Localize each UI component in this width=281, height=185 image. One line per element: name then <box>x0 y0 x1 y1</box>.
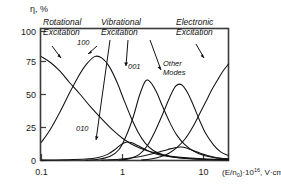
y-tick-label-0: 0 <box>31 156 36 166</box>
annotation-mode-100: 100 <box>77 38 90 47</box>
x-tick-label-0.1: 0.1 <box>35 167 48 177</box>
annotation-rotational-excitation: Rotational Excitation <box>43 17 82 37</box>
annotation-other-modes-line2: Modes <box>163 68 186 77</box>
x-tick-label-10: 10 <box>198 167 208 177</box>
x-axis-label: (E/n0)·1016, V·cm2 <box>222 167 281 179</box>
svg-text:(E/n0)·1016, V·cm2: (E/n0)·1016, V·cm2 <box>222 167 281 179</box>
x-label-mid: )·10 <box>240 168 255 177</box>
annotation-vibrational-excitation: Vibrational Excitation <box>101 17 142 37</box>
annotation-arrows <box>52 40 204 140</box>
curve-other-modes <box>119 84 228 160</box>
y-axis-ticks <box>41 32 47 161</box>
annotation-rotational-line2: Excitation <box>43 27 80 37</box>
y-tick-label-75: 75 <box>26 57 36 67</box>
y-tick-label-50: 50 <box>26 90 36 100</box>
arrow-head-vibrational-other <box>158 66 161 70</box>
x-tick-label-1: 1 <box>120 167 125 177</box>
chart-svg: 100 75 50 25 0 0.1 1 10 η, % (E/n0)·1016… <box>0 0 281 185</box>
arrow-vibrational-other <box>150 40 161 70</box>
annotation-other-modes: Other Modes <box>163 59 186 77</box>
chart-figure: 100 75 50 25 0 0.1 1 10 η, % (E/n0)·1016… <box>0 0 281 185</box>
annotation-rotational-line1: Rotational <box>43 17 82 27</box>
x-label-tail: , V·cm <box>260 168 281 177</box>
curves-group <box>42 56 229 160</box>
annotation-mode-001: 001 <box>128 62 141 71</box>
x-label-base: (E/n <box>222 168 237 177</box>
y-tick-label-100: 100 <box>21 27 36 37</box>
annotation-electronic-excitation: Electronic Excitation <box>176 17 214 37</box>
annotation-mode-010: 010 <box>76 124 89 133</box>
annotation-vibrational-line1: Vibrational <box>101 17 142 27</box>
annotation-other-modes-line1: Other <box>163 59 182 68</box>
annotation-vibrational-line2: Excitation <box>101 27 138 37</box>
curve-electronic-excitation <box>142 64 229 160</box>
arrow-head-electronic <box>201 54 204 58</box>
y-axis-label: η, % <box>30 4 48 14</box>
curve-other-modes-low <box>102 147 229 160</box>
curve-mode-001 <box>86 80 229 160</box>
annotation-electronic-line2: Excitation <box>176 27 213 37</box>
annotation-electronic-line1: Electronic <box>176 17 214 27</box>
y-tick-label-25: 25 <box>26 123 36 133</box>
